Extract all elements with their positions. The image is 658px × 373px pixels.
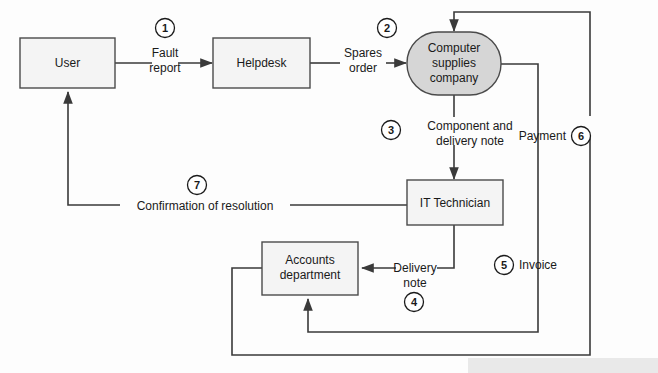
node-it-technician-label: IT Technician xyxy=(420,196,490,210)
edge-label-spares-order-line1: Spares xyxy=(344,46,382,60)
edge-label-invoice-text: Invoice xyxy=(519,258,557,272)
edge-label-component-line1: Component and xyxy=(427,119,512,133)
edge-label-fault-report-line2: report xyxy=(149,61,181,75)
edge-label-payment: Payment 6 xyxy=(519,127,591,146)
node-supplier-label-line3: company xyxy=(430,71,479,85)
edge-label-component-delivery-note: 3 Component and delivery note xyxy=(382,119,513,148)
process-flow-diagram: User Helpdesk Computer supplies company … xyxy=(0,0,658,373)
node-supplier-label-line1: Computer xyxy=(428,41,481,55)
node-computer-supplies-company[interactable]: Computer supplies company xyxy=(407,32,501,95)
edge-label-confirmation-of-resolution: 7 Confirmation of resolution xyxy=(137,176,274,214)
edge-label-delivery-note-line2: note xyxy=(403,276,427,290)
step-badge-6-number: 6 xyxy=(578,130,584,142)
edge-label-delivery-note-line1: Delivery xyxy=(393,261,436,275)
edge-label-delivery-note: Delivery note 4 xyxy=(393,261,436,312)
edge-label-confirmation-text: Confirmation of resolution xyxy=(137,199,274,213)
node-helpdesk-label: Helpdesk xyxy=(236,56,287,70)
step-badge-4-number: 4 xyxy=(411,296,418,308)
node-it-technician[interactable]: IT Technician xyxy=(407,180,503,225)
edge-label-fault-report-line1: Fault xyxy=(152,46,179,60)
node-supplier-label-line2: supplies xyxy=(432,56,476,70)
step-badge-5-number: 5 xyxy=(501,259,507,271)
edge-label-component-line2: delivery note xyxy=(436,134,504,148)
step-badge-7-number: 7 xyxy=(194,179,200,191)
edge-label-spares-order-line2: order xyxy=(349,61,377,75)
edge-label-spares-order: 2 Spares order xyxy=(344,19,397,76)
node-accounts-department[interactable]: Accounts department xyxy=(262,242,358,295)
edge-label-fault-report: 1 Fault report xyxy=(149,19,181,76)
node-user-label: User xyxy=(55,56,80,70)
diagram-canvas: User Helpdesk Computer supplies company … xyxy=(0,0,658,373)
step-badge-1-number: 1 xyxy=(162,22,168,34)
node-helpdesk[interactable]: Helpdesk xyxy=(213,38,310,88)
node-accounts-label-line2: department xyxy=(280,268,341,282)
edge-label-invoice: 5 Invoice xyxy=(495,256,558,275)
connector-confirmation-of-resolution xyxy=(68,92,407,205)
step-badge-2-number: 2 xyxy=(384,22,390,34)
node-user[interactable]: User xyxy=(20,38,115,88)
page-edge-shading xyxy=(468,358,658,373)
edge-label-payment-text: Payment xyxy=(519,129,567,143)
step-badge-3-number: 3 xyxy=(388,124,394,136)
node-accounts-label-line1: Accounts xyxy=(285,253,334,267)
